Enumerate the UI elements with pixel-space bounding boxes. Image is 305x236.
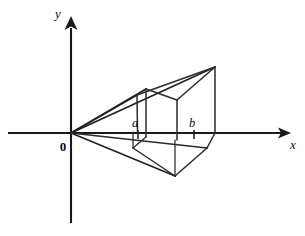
geometry-diagram: y x 0 a b xyxy=(0,0,305,236)
x-axis-label: x xyxy=(289,137,296,152)
y-axis-arrowhead xyxy=(65,16,78,30)
y-axis-label: y xyxy=(53,6,61,21)
edge-origin-to-right-front xyxy=(71,133,207,148)
edge-mid-right-to-top-right xyxy=(177,67,215,100)
edge-apex-a-to-top-right xyxy=(137,67,215,95)
origin-label: 0 xyxy=(60,139,67,154)
axes-group xyxy=(8,16,291,223)
point-b-label: b xyxy=(189,116,195,130)
edge-a-front-to-near-a-low xyxy=(133,137,146,148)
edge-right-front-to-right-axis xyxy=(207,133,215,148)
point-a-label: a xyxy=(132,116,138,130)
figure-container: y x 0 a b xyxy=(0,0,305,236)
edge-bottom-vertex-to-right-front xyxy=(175,148,207,176)
